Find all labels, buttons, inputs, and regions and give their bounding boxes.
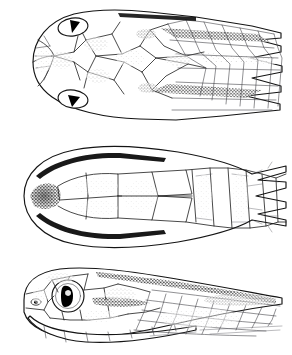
panel-dorsal (33, 10, 282, 120)
illustration-canvas (0, 0, 292, 355)
ventral-mental-shade (30, 184, 58, 208)
lateral-pupil-highlight (65, 290, 71, 296)
figure-plate (0, 0, 292, 355)
lateral-eye (52, 280, 84, 312)
